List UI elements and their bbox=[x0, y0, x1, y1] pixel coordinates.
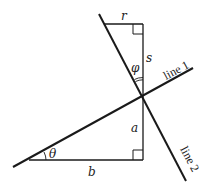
label-phi: φ bbox=[131, 61, 140, 75]
right-angle-marker-top bbox=[133, 24, 143, 34]
label-a: a bbox=[131, 121, 138, 135]
label-b: b bbox=[88, 165, 96, 179]
line-1 bbox=[13, 68, 193, 167]
phi-angle-arc bbox=[135, 78, 144, 80]
phi-angle-arc-2 bbox=[136, 80, 144, 82]
label-theta: θ bbox=[49, 147, 57, 161]
label-line-1: line 1 bbox=[161, 58, 191, 83]
label-s: s bbox=[146, 51, 152, 65]
right-angle-marker-bottom bbox=[133, 150, 143, 160]
geometry-diagram: r s φ a b θ line 1 line 2 bbox=[0, 0, 209, 189]
label-r: r bbox=[121, 9, 128, 23]
theta-angle-arc bbox=[44, 152, 46, 160]
